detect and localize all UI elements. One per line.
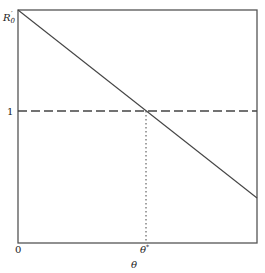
x-tick-theta-star: θ* [140, 243, 149, 255]
y-tick-r0: R0′ [2, 10, 16, 25]
plot-frame [18, 10, 257, 243]
r0-line [18, 10, 257, 198]
x-tick-zero: 0 [15, 244, 21, 255]
x-axis-label: θ [131, 259, 137, 270]
y-tick-one: 1 [7, 106, 13, 117]
chart: R0′ 1 0 θ* θ [0, 0, 265, 273]
